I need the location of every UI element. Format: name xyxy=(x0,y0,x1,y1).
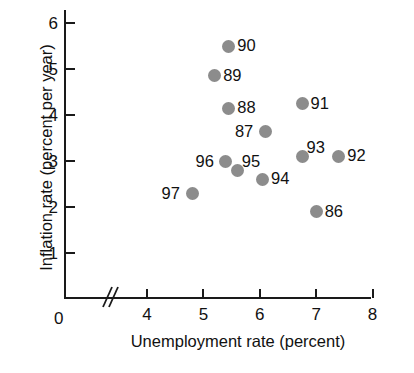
data-point-89 xyxy=(208,69,221,82)
data-point-90 xyxy=(222,40,235,53)
data-point-91 xyxy=(296,97,309,110)
data-point-94 xyxy=(256,173,269,186)
data-point-label-88: 88 xyxy=(237,99,255,116)
plot-area: 868788899091929394959697 xyxy=(0,0,414,373)
data-point-label-95: 95 xyxy=(242,153,260,170)
data-point-label-91: 91 xyxy=(311,95,329,112)
data-point-label-92: 92 xyxy=(347,147,365,164)
data-point-86 xyxy=(310,205,323,218)
data-point-label-86: 86 xyxy=(325,203,343,220)
data-point-label-96: 96 xyxy=(195,153,213,170)
scatter-chart-figure: 123456 45678 0 Unemployment rate (percen… xyxy=(0,0,414,373)
data-point-88 xyxy=(222,102,235,115)
data-point-96 xyxy=(219,155,232,168)
data-point-92 xyxy=(332,150,345,163)
data-point-87 xyxy=(259,125,272,138)
data-point-label-90: 90 xyxy=(237,37,255,54)
data-point-label-89: 89 xyxy=(223,67,241,84)
data-point-label-94: 94 xyxy=(271,170,289,187)
data-point-label-93: 93 xyxy=(307,139,325,156)
data-point-97 xyxy=(186,187,199,200)
data-point-label-87: 87 xyxy=(235,123,253,140)
data-point-label-97: 97 xyxy=(162,185,180,202)
